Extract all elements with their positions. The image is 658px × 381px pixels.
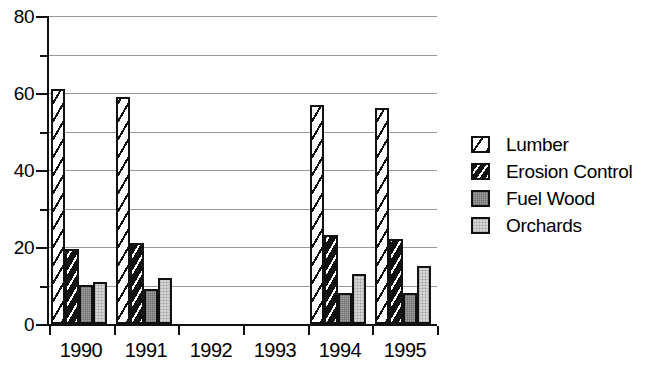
legend-swatch-icon xyxy=(471,136,490,153)
x-axis-tick xyxy=(49,326,51,335)
legend-item-orchards[interactable]: Orchards xyxy=(471,212,632,239)
x-axis-tick-label: 1995 xyxy=(370,339,440,361)
bar-erosion-control-1990 xyxy=(65,249,79,324)
legend-item-lumber[interactable]: Lumber xyxy=(471,131,632,158)
x-axis-tick xyxy=(372,326,374,335)
bar-fuel-wood-1994 xyxy=(338,293,352,324)
bar-lumber-1991 xyxy=(116,97,130,324)
x-axis-tick-label: 1994 xyxy=(305,339,375,361)
legend-swatch-icon xyxy=(471,190,490,207)
legend-item-label: Orchards xyxy=(506,216,582,236)
bar-orchards-1990 xyxy=(93,282,107,324)
legend-item-label: Erosion Control xyxy=(506,162,632,182)
legend-swatch-icon xyxy=(471,217,490,234)
x-axis-tick xyxy=(437,326,439,335)
x-axis-tick xyxy=(308,326,310,335)
x-axis-line xyxy=(47,324,437,326)
bar-erosion-control-1995 xyxy=(389,239,403,324)
legend-item-fuel-wood[interactable]: Fuel Wood xyxy=(471,185,632,212)
bar-orchards-1995 xyxy=(417,266,431,324)
x-axis-tick-label: 1990 xyxy=(46,339,116,361)
legend-item-label: Lumber xyxy=(506,135,569,155)
x-axis-tick xyxy=(114,326,116,335)
x-axis-tick-label: 1991 xyxy=(111,339,181,361)
bar-fuel-wood-1991 xyxy=(144,289,158,324)
bar-chart: 020406080 199019911992199319941995 Lumbe… xyxy=(0,0,658,381)
legend: LumberErosion ControlFuel WoodOrchards xyxy=(471,131,632,239)
bar-lumber-1995 xyxy=(375,108,389,324)
bar-erosion-control-1991 xyxy=(130,243,144,324)
bar-fuel-wood-1990 xyxy=(79,285,93,324)
bar-erosion-control-1994 xyxy=(324,235,338,324)
legend-swatch-icon xyxy=(471,163,490,180)
bar-lumber-1994 xyxy=(310,105,324,324)
bar-orchards-1991 xyxy=(158,278,172,324)
x-axis-tick xyxy=(178,326,180,335)
x-axis-tick xyxy=(243,326,245,335)
bar-orchards-1994 xyxy=(352,274,366,324)
legend-item-label: Fuel Wood xyxy=(506,189,595,209)
legend-item-erosion-control[interactable]: Erosion Control xyxy=(471,158,632,185)
x-axis-tick-label: 1992 xyxy=(176,339,246,361)
bar-lumber-1990 xyxy=(51,89,65,324)
x-axis-tick-label: 1993 xyxy=(240,339,310,361)
bar-fuel-wood-1995 xyxy=(403,293,417,324)
